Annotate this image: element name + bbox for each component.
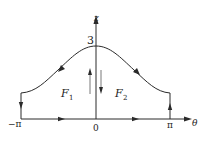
- contour-diagram: z 3 θ −π 0 π F 1 F 2: [0, 0, 205, 143]
- path-arrow-up-icon: [168, 103, 172, 110]
- theta-axis-label: θ: [192, 118, 198, 128]
- interior-arrow-up-icon: [88, 68, 92, 75]
- theta-axis-arrow-icon: [184, 117, 192, 122]
- tick-label-minus-pi: −π: [8, 119, 22, 129]
- peak-value-label: 3: [87, 34, 94, 47]
- region-label-f1: F 1: [60, 87, 73, 102]
- region-label-f2: F 2: [114, 87, 127, 102]
- svg-text:2: 2: [123, 94, 127, 102]
- svg-text:F: F: [60, 87, 69, 100]
- curve-arrow-icon: [133, 68, 140, 75]
- svg-text:F: F: [114, 87, 123, 100]
- right-boundary: [168, 93, 172, 119]
- svg-text:1: 1: [69, 94, 73, 102]
- z-axis: [94, 15, 99, 119]
- path-arrow-right-icon: [132, 117, 139, 121]
- left-boundary: [19, 93, 23, 119]
- path-arrow-right-icon: [58, 117, 65, 121]
- tick-label-zero: 0: [93, 123, 99, 133]
- z-axis-label: z: [93, 13, 99, 23]
- tick-label-pi: π: [167, 120, 173, 130]
- path-arrow-down-icon: [19, 102, 23, 109]
- interior-arrow-down-icon: [99, 87, 103, 94]
